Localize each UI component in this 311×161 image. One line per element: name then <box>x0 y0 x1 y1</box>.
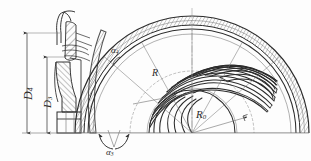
label-d4: D4 <box>22 88 35 100</box>
shroud-body-hatched <box>65 22 76 61</box>
hub-section-hatched <box>56 62 76 112</box>
label-alpha3: α3 <box>106 148 114 158</box>
engineering-drawing-canvas: D4 D3 α4 α3 R R0 <box>0 0 311 161</box>
impeller-blades <box>150 65 277 133</box>
label-d3: D3 <box>42 97 54 108</box>
dimension-d4 <box>27 33 60 133</box>
label-r: R <box>152 68 158 78</box>
label-alpha4: α4 <box>111 46 119 56</box>
drawing-sheet <box>0 0 311 161</box>
impeller-plan-view <box>75 8 309 140</box>
label-r0: R0 <box>196 109 206 121</box>
